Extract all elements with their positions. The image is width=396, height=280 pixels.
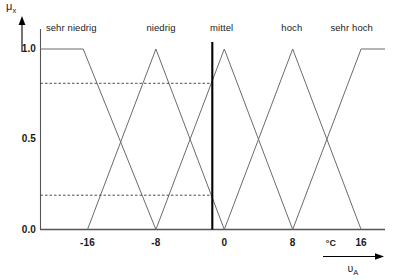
set-label-hoch: hoch (281, 23, 302, 33)
y-tick-label-1: 1.0 (8, 44, 36, 54)
y-tick-label-0_5: 0.5 (8, 134, 36, 144)
curve-niedrig (88, 49, 225, 230)
fuzzy-membership-chart: μx 1.0 0.5 0.0 sehr niedrig niedrig mitt… (0, 0, 396, 280)
y-axis-title-subscript: x (12, 6, 16, 15)
chart-canvas (0, 0, 396, 280)
set-label-niedrig: niedrig (146, 23, 175, 33)
x-tick-label-minus8: -8 (151, 238, 160, 248)
x-tick-label-minus16: -16 (80, 238, 95, 248)
x-axis-arrow (323, 253, 384, 260)
set-label-sehr-hoch: sehr hoch (330, 23, 373, 33)
x-tick-label-16: 16 (355, 238, 366, 248)
x-tick-label-8: 8 (290, 238, 296, 248)
curve-sehr-hoch (293, 49, 385, 230)
x-axis-unit-label: °C (326, 238, 336, 248)
mu-level-lines (41, 83, 213, 195)
set-label-sehr-niedrig: sehr niedrig (46, 23, 97, 33)
set-label-mittel: mittel (210, 23, 233, 33)
x-axis-title-subscript: A (353, 268, 358, 277)
y-tick-label-0: 0.0 (8, 225, 36, 235)
x-axis-title: υA (348, 263, 359, 278)
curve-mittel (156, 49, 293, 230)
curve-hoch (224, 49, 361, 230)
y-axis-title: μx (6, 1, 16, 16)
x-tick-label-0: 0 (221, 238, 227, 248)
